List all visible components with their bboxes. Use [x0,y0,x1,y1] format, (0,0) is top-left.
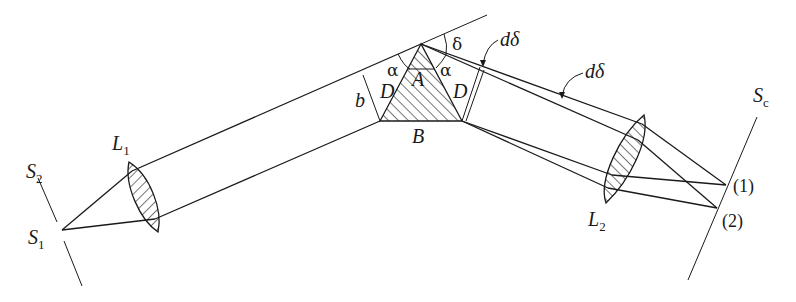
label-delta: δ [452,34,462,54]
beam-width-b-line [363,75,380,121]
ray-s1-to-l1-top [62,171,132,230]
label-sc: Sc [753,84,769,110]
label-l2: L2 [587,208,606,234]
label-b: b [355,89,365,111]
label-l1: L1 [111,132,130,158]
exit-beam-1-bottom [462,121,612,175]
source-slit-plane-lower [64,241,82,286]
label-d-delta-1: dδ [500,28,520,50]
focus-ray-2-bottom [608,188,717,208]
spectrometer-diagram: S2 S1 L1 L2 Sc b D D A B α α δ dδ dδ (1)… [0,0,796,302]
d-delta-leader-2 [562,73,583,96]
label-s1: S1 [28,226,45,252]
collimated-beam-top [132,44,421,171]
label-b-base: B [412,125,424,147]
label-d-right: D [452,80,468,102]
focal-plane-sc [688,117,757,280]
label-alpha-right: α [440,60,452,80]
focus-ray-1-bottom [612,175,726,185]
label-alpha-left: α [387,60,399,80]
label-d-delta-2: dδ [585,60,605,82]
exit-beam-2-bottom [462,121,608,188]
label-point-2: (2) [722,211,743,232]
label-a: A [410,68,425,90]
ray-s1-to-l1-bottom [62,219,155,230]
label-s2: S2 [26,160,43,186]
exit-aperture-line-2 [466,70,484,121]
label-d-left: D [379,80,395,102]
collimated-beam-bottom [155,121,380,219]
label-point-1: (1) [733,176,754,197]
